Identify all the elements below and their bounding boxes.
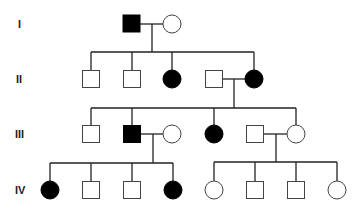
male-affected-i-1	[123, 15, 140, 32]
male-unaffected-ii-1	[83, 71, 100, 88]
female-unaffected-iii-6	[287, 125, 305, 143]
individuals	[41, 15, 346, 199]
male-unaffected-iv-7	[288, 182, 305, 199]
male-unaffected-ii-4	[206, 71, 223, 88]
male-affected-iii-2	[124, 126, 141, 143]
generation-labels: I II III IV	[15, 18, 26, 196]
pedigree-chart: I II III IV	[0, 0, 359, 213]
connector-lines	[50, 24, 337, 181]
male-unaffected-iv-2	[83, 182, 100, 199]
female-affected-iii-4	[205, 125, 223, 143]
female-affected-iv-1	[41, 181, 59, 199]
generation-label-iii: III	[15, 128, 24, 140]
generation-label-iv: IV	[15, 184, 26, 196]
male-unaffected-iii-5	[247, 126, 264, 143]
male-unaffected-iv-3	[124, 182, 141, 199]
male-unaffected-iv-6	[247, 182, 264, 199]
female-unaffected-i-2	[163, 15, 181, 33]
male-unaffected-iii-1	[83, 126, 100, 143]
female-affected-ii-5	[245, 70, 263, 88]
female-affected-ii-3	[163, 70, 181, 88]
female-unaffected-iv-8	[328, 181, 346, 199]
generation-label-i: I	[18, 18, 21, 30]
female-affected-iv-4	[164, 181, 182, 199]
male-unaffected-ii-2	[124, 71, 141, 88]
generation-label-ii: II	[16, 73, 22, 85]
female-unaffected-iii-3	[163, 125, 181, 143]
female-unaffected-iv-5	[205, 181, 223, 199]
